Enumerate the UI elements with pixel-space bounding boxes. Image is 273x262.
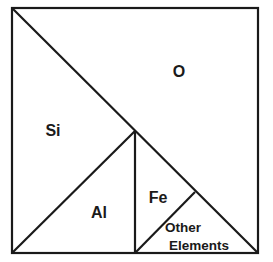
diagram-lines (0, 0, 273, 262)
region-label-oxygen: O (173, 64, 185, 80)
element-composition-diagram: O Si Al Fe Other Elements (0, 0, 273, 262)
region-label-silicon: Si (45, 123, 60, 139)
region-label-aluminum: Al (91, 205, 107, 221)
region-label-iron: Fe (149, 190, 168, 206)
region-label-other-line2: Elements (169, 239, 229, 253)
region-label-other-line1: Other (165, 221, 201, 235)
